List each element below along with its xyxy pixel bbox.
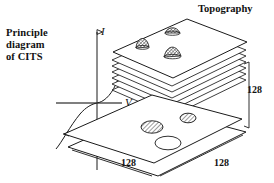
title-line-3: of CITS [6, 51, 48, 63]
dimension-label-vertical: 128 [247, 84, 262, 95]
dimension-label-bottom-left: 128 [121, 157, 136, 168]
page-title: Principle diagram of CITS [6, 27, 48, 62]
topography-feature-spot-open [155, 136, 181, 150]
dimension-label-bottom-right: 128 [214, 157, 229, 168]
topography-feature-spot [180, 113, 196, 123]
topography-feature-spot [141, 121, 163, 133]
current-axis-label: I [101, 25, 105, 37]
cits-principle-diagram: Principle diagram of CITS Topography I V… [0, 0, 274, 183]
topography-label: Topography [198, 3, 252, 15]
voltage-axis-label: V [125, 96, 132, 108]
title-line-2: diagram [6, 39, 48, 51]
title-line-1: Principle [6, 27, 48, 39]
